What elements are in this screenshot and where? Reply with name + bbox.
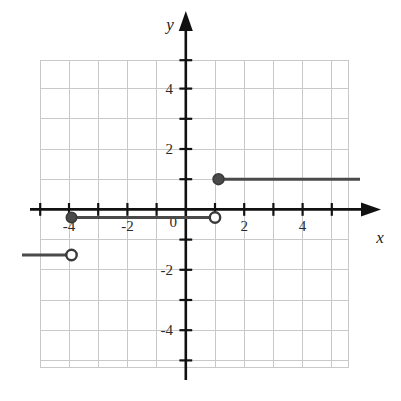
coordinate-plane-svg: -4 -2 2 4 -4 -2 2 4 0 y x bbox=[0, 0, 401, 401]
closed-point--4-0 bbox=[66, 212, 76, 222]
graph-figure: -4 -2 2 4 -4 -2 2 4 0 y x bbox=[0, 0, 401, 401]
x-axis-label: x bbox=[375, 228, 384, 247]
y-tick-label--4: -4 bbox=[161, 322, 174, 338]
open-point--4--1 bbox=[66, 250, 76, 260]
open-point-1-0 bbox=[210, 212, 220, 222]
y-tick-label--2: -2 bbox=[161, 262, 174, 278]
x-tick-label--2: -2 bbox=[121, 218, 134, 234]
y-tick-label-4: 4 bbox=[166, 81, 174, 97]
x-tick-label-4: 4 bbox=[299, 218, 307, 234]
y-axis-label: y bbox=[164, 15, 174, 34]
x-tick-label-2: 2 bbox=[240, 218, 248, 234]
closed-point-1-1 bbox=[213, 174, 224, 185]
y-tick-label-2: 2 bbox=[166, 141, 174, 157]
